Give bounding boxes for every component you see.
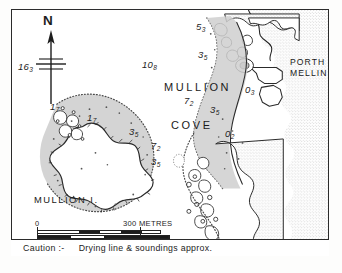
cables-seg-1: [38, 236, 71, 238]
sounding-dec: 3: [251, 89, 255, 96]
nautical-chart: N MULLION COVE PORTH MELLIN MULLION I. 1…: [0, 0, 342, 273]
sounding-whole: 16: [18, 61, 29, 72]
sounding-3-5-c: 35: [210, 105, 219, 115]
cables-seg-3: [137, 236, 170, 238]
sounding-1-7-a: 17: [50, 102, 59, 112]
sounding-whole: 5: [196, 21, 201, 32]
sounding-whole: 7: [151, 140, 156, 151]
metres-tick-start: [37, 227, 38, 235]
sounding-whole: 3: [210, 104, 215, 115]
place-label-cove: COVE: [171, 120, 213, 131]
sounding-whole: 1: [87, 112, 92, 123]
sounding-0-3: 03: [245, 85, 254, 95]
sounding-dec: 5: [204, 54, 208, 61]
porth-mellin-harbour: [250, 68, 282, 107]
sounding-whole: 3: [198, 49, 203, 60]
compass-rose: N: [29, 14, 73, 104]
sounding-whole: 0: [225, 128, 230, 139]
sounding-3-5-d: 35: [151, 157, 160, 167]
sounding-dec: 2: [190, 100, 194, 107]
isolated-rock-marker: [173, 154, 184, 167]
place-label-mellin: MELLIN: [290, 69, 328, 78]
cables-seg-2: [104, 236, 137, 238]
sounding-dec: 3: [29, 66, 33, 73]
sounding-10-8: 108: [142, 60, 157, 70]
caution-caption: Caution :- Drying line & soundings appro…: [11, 239, 329, 256]
sounding-whole: 3: [129, 126, 134, 137]
sounding-5-3: 53: [196, 22, 205, 32]
sounding-dec: 2: [157, 145, 161, 152]
sounding-0-2: 02: [225, 129, 234, 139]
metres-scale-bar: [37, 230, 161, 234]
sounding-7-2-a: 72: [184, 96, 193, 106]
sounding-dec: 7: [93, 117, 97, 124]
caution-text: Drying line & soundings approx.: [79, 243, 213, 253]
place-label-mullion: MULLION: [164, 82, 231, 93]
sounding-whole: 1: [50, 101, 55, 112]
map-frame: N MULLION COVE PORTH MELLIN MULLION I. 1…: [11, 9, 329, 256]
place-label-mullion-island: MULLION I.: [34, 195, 99, 204]
sounding-dec: 7: [56, 106, 60, 113]
sounding-dec: 2: [231, 133, 235, 140]
sounding-1-7-b: 17: [87, 113, 96, 123]
sounding-7-2-b: 72: [151, 141, 160, 151]
sounding-whole: 10: [142, 59, 153, 70]
sounding-3-5-b: 35: [198, 50, 207, 60]
metres-seg-2: [121, 231, 142, 233]
sounding-dec: 5: [135, 131, 139, 138]
metres-seg-1: [79, 231, 100, 233]
sounding-dec: 3: [202, 26, 206, 33]
place-label-porth: PORTH: [290, 58, 325, 67]
sounding-16-3: 163: [18, 62, 33, 72]
metres-tick-end: [140, 227, 141, 235]
metres-unit-label: 300 METRES: [123, 219, 172, 228]
sounding-dec: 8: [153, 64, 157, 71]
caution-word: Caution :-: [23, 243, 65, 253]
sounding-dec: 5: [216, 109, 220, 116]
sounding-whole: 7: [184, 95, 189, 106]
sounding-whole: 0: [245, 84, 250, 95]
compass-north-label: N: [43, 14, 53, 28]
sounding-3-5-a: 35: [129, 127, 138, 137]
sounding-dec: 5: [157, 161, 161, 168]
sounding-whole: 3: [151, 156, 156, 167]
